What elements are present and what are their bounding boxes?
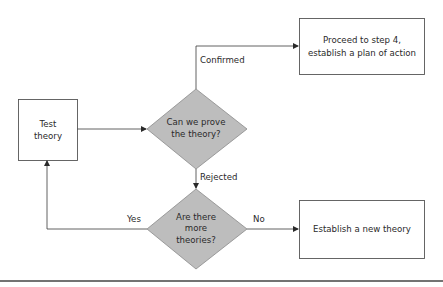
test-theory-line2: theory [34,130,62,142]
proceed-line2: establish a plan of action [308,47,416,59]
new-theory-line1: Establish a new theory [313,223,411,235]
edge-label-yes: Yes [127,214,141,226]
flowchart-canvas: Test theory Proceed to step 4, establish… [0,0,443,287]
more-theories-line3: theories? [176,235,216,247]
test-theory-label: Test theory [18,99,78,161]
proceed-label: Proceed to step 4, establish a plan of a… [299,18,425,75]
more-theories-line1: Are there [176,212,216,224]
can-prove-line1: Can we prove [167,117,226,129]
more-theories-label: Are there more theories? [150,204,242,254]
edge-label-confirmed: Confirmed [200,55,245,67]
edge-confirmed [196,46,298,89]
edge-label-rejected: Rejected [200,172,237,184]
edge-label-no: No [253,214,265,226]
can-prove-label: Can we prove the theory? [150,110,242,148]
proceed-line1: Proceed to step 4, [323,34,401,46]
test-theory-line1: Test [40,118,57,130]
more-theories-line2: more [185,223,207,235]
new-theory-label: Establish a new theory [299,200,425,259]
can-prove-line2: the theory? [171,129,220,141]
